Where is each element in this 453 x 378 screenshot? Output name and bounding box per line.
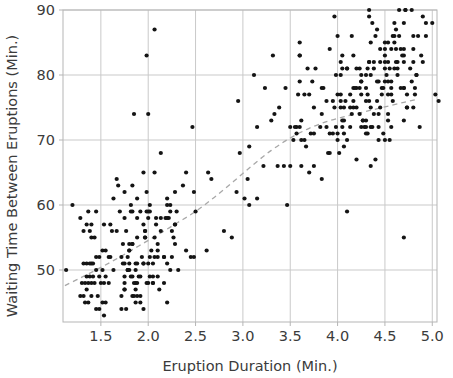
data-point	[340, 66, 344, 70]
data-point	[367, 60, 371, 64]
data-point	[100, 268, 104, 272]
scatter-plot-figure: 1.52.02.53.03.54.04.55.05060708090 Erupt…	[0, 0, 453, 378]
data-point	[378, 60, 382, 64]
data-point	[394, 60, 398, 64]
data-point	[413, 86, 417, 90]
data-point	[378, 105, 382, 109]
data-point	[271, 53, 275, 57]
data-point	[263, 86, 267, 90]
data-point	[293, 125, 297, 129]
data-point	[141, 222, 145, 226]
data-point	[157, 287, 161, 291]
data-point	[206, 170, 210, 174]
data-point	[345, 209, 349, 213]
data-point	[414, 73, 418, 77]
data-point	[173, 222, 177, 226]
data-point	[209, 177, 213, 181]
data-point	[375, 79, 379, 83]
data-point	[411, 34, 415, 38]
data-point	[375, 27, 379, 31]
data-point	[376, 112, 380, 116]
data-point	[370, 21, 374, 25]
data-point	[92, 235, 96, 239]
data-point	[145, 190, 149, 194]
data-point	[130, 183, 134, 187]
data-point	[339, 92, 343, 96]
data-point	[343, 99, 347, 103]
data-point	[402, 60, 406, 64]
data-point	[324, 125, 328, 129]
data-point	[119, 307, 123, 311]
data-point	[403, 8, 407, 12]
data-point	[255, 196, 259, 200]
data-point	[162, 281, 166, 285]
data-point	[115, 229, 119, 233]
data-point	[383, 53, 387, 57]
data-point	[143, 235, 147, 239]
data-point	[366, 92, 370, 96]
data-point	[140, 255, 144, 259]
data-point	[127, 248, 131, 252]
data-point	[126, 268, 130, 272]
x-tick-label: 3.0	[231, 328, 254, 344]
data-point	[313, 66, 317, 70]
data-point	[339, 60, 343, 64]
data-point	[146, 261, 150, 265]
data-point	[91, 274, 95, 278]
x-tick-label: 5.0	[421, 328, 444, 344]
data-point	[108, 222, 112, 226]
data-point	[364, 131, 368, 135]
data-point	[81, 294, 85, 298]
data-point	[181, 183, 185, 187]
data-point	[102, 313, 106, 317]
data-point	[391, 99, 395, 103]
data-point	[85, 222, 89, 226]
data-point	[126, 255, 130, 259]
data-point	[165, 300, 169, 304]
data-point	[296, 92, 300, 96]
data-point	[294, 131, 298, 135]
data-point	[184, 248, 188, 252]
data-point	[361, 118, 365, 122]
data-point	[312, 164, 316, 168]
data-point	[437, 99, 441, 103]
data-point	[424, 21, 428, 25]
data-point	[369, 73, 373, 77]
data-point	[394, 47, 398, 51]
data-point	[350, 112, 354, 116]
data-point	[165, 261, 169, 265]
data-point	[222, 229, 226, 233]
data-point	[151, 274, 155, 278]
data-point	[86, 209, 90, 213]
data-point	[89, 222, 93, 226]
data-point	[246, 177, 250, 181]
data-point	[354, 66, 358, 70]
data-point	[159, 229, 163, 233]
data-point	[416, 34, 420, 38]
data-point	[389, 86, 393, 90]
data-point	[193, 209, 197, 213]
data-point	[247, 144, 251, 148]
data-point	[124, 229, 128, 233]
data-point	[230, 235, 234, 239]
data-point	[402, 86, 406, 90]
data-point	[81, 229, 85, 233]
data-point	[408, 66, 412, 70]
data-point	[234, 190, 238, 194]
x-tick-label: 4.0	[326, 328, 349, 344]
data-point	[192, 255, 196, 259]
data-point	[350, 34, 354, 38]
data-point	[96, 294, 100, 298]
y-tick-label: 90	[37, 2, 55, 18]
data-point	[364, 73, 368, 77]
data-point	[364, 86, 368, 90]
data-point	[132, 281, 136, 285]
data-point	[152, 170, 156, 174]
data-point	[163, 216, 167, 220]
data-point	[383, 138, 387, 142]
data-point	[411, 60, 415, 64]
data-point	[304, 144, 308, 148]
data-point	[152, 235, 156, 239]
y-tick-label: 50	[37, 262, 55, 278]
data-point	[383, 40, 387, 44]
